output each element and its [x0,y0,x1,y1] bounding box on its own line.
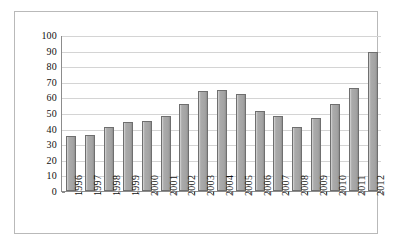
x-axis-tick-label: 1998 [112,175,122,196]
x-axis-tick-label: 2003 [206,175,216,196]
gridline [62,36,381,37]
x-axis-tick-label: 2005 [244,175,254,196]
x-axis-tick-label: 2004 [225,175,235,196]
x-axis-tick-label: 2007 [281,175,291,196]
gridline [62,83,381,84]
y-axis-tickmark [62,192,65,193]
y-axis-tick-label: 50 [23,109,57,119]
chart-frame: 1009080706050403020100 19961997199819992… [14,11,378,234]
y-axis-tick-label: 30 [23,140,57,150]
y-axis-tick-label: 70 [23,78,57,88]
x-axis-tick-label: 2011 [357,175,367,196]
y-axis-tick-label: 60 [23,93,57,103]
x-axis-tick-label: 2008 [300,175,310,196]
gridline [62,52,381,53]
x-axis: 1996199719981999200020012002200320042005… [61,194,381,238]
y-axis-tick-label: 80 [23,62,57,72]
bar [368,52,378,191]
plot-area [61,36,381,192]
x-axis-tick-label: 1997 [93,175,103,196]
y-axis-tick-label: 20 [23,156,57,166]
x-axis-tick-label: 1999 [131,175,141,196]
gridline [62,67,381,68]
x-axis-tick-label: 2009 [319,175,329,196]
x-axis-tick-label: 2010 [338,175,348,196]
y-axis-tick-label: 0 [23,187,57,197]
x-axis-tick-label: 2012 [376,175,386,196]
x-axis-tick-label: 2000 [150,175,160,196]
x-axis-tick-label: 1996 [74,175,84,196]
x-axis-tick-label: 2001 [169,175,179,196]
y-axis-tick-label: 90 [23,47,57,57]
x-axis-tick-label: 2006 [263,175,273,196]
x-axis-tick-label: 2002 [187,175,197,196]
y-axis: 1009080706050403020100 [19,36,57,192]
y-axis-tick-label: 100 [23,31,57,41]
chart-figure: 1009080706050403020100 19961997199819992… [0,0,400,247]
y-axis-tick-label: 10 [23,171,57,181]
y-axis-tick-label: 40 [23,125,57,135]
